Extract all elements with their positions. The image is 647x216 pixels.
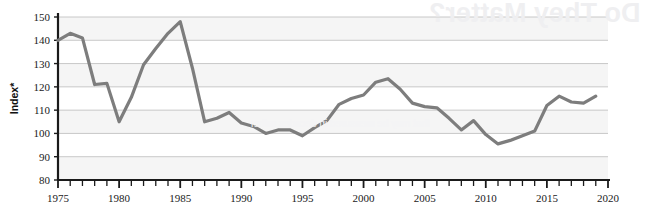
y-axis-tick-labels: 8090100110120130140150 [34,11,51,186]
svg-text:150: 150 [34,11,51,23]
svg-text:140: 140 [34,34,51,46]
svg-text:2010: 2010 [475,192,498,204]
svg-text:80: 80 [39,174,51,186]
line-chart-svg: 8090100110120130140150 19751980198519901… [0,0,647,216]
svg-text:120: 120 [34,81,51,93]
chart-gridlines [58,17,608,180]
chart-figure: Do They Matter? that may be measured in … [0,0,647,216]
svg-text:2000: 2000 [353,192,376,204]
svg-text:1985: 1985 [169,192,192,204]
svg-text:90: 90 [39,151,51,163]
svg-text:2005: 2005 [414,192,437,204]
svg-text:1990: 1990 [230,192,253,204]
svg-text:130: 130 [34,58,51,70]
svg-text:1975: 1975 [47,192,70,204]
svg-text:100: 100 [34,127,51,139]
x-axis-tick-labels: 1975198019851990199520002005201020152020 [47,192,620,204]
svg-text:1995: 1995 [291,192,314,204]
svg-text:2015: 2015 [536,192,559,204]
chart-bands [58,17,608,180]
svg-text:2020: 2020 [597,192,620,204]
y-axis-title: Index* [8,82,20,114]
x-axis-ticks [58,180,608,188]
svg-text:110: 110 [34,104,51,116]
svg-text:1980: 1980 [108,192,131,204]
